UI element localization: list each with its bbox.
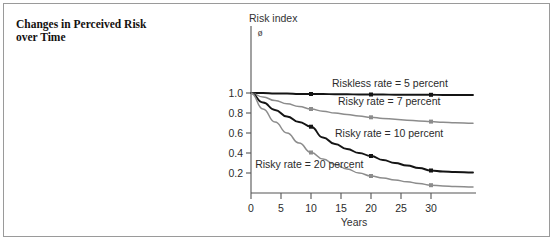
data-point-marker [369, 154, 373, 158]
data-point-marker [309, 125, 313, 129]
y-axis-title-group: Risk index ø [249, 12, 298, 38]
y-axis-title: Risk index [249, 12, 298, 24]
data-point-marker [429, 183, 433, 187]
series-annotation-5-percent: Riskless rate = 5 percent [332, 77, 448, 89]
risk-index-line-chart: Risk index ø 1.0 0.8 0.6 0.4 0.2 [4, 4, 551, 238]
data-point-marker [309, 151, 313, 155]
annotation-layer: Riskless rate = 5 percentRisky rate = 7 … [255, 77, 448, 170]
series-annotation-7-percent: Risky rate = 7 percent [338, 95, 441, 107]
y-tick-label-1.0: 1.0 [228, 87, 243, 99]
y-tick-label-0.4: 0.4 [228, 147, 243, 159]
data-point-marker [429, 120, 433, 124]
x-tick-label-30: 30 [425, 202, 437, 214]
y-tick-label-0.2: 0.2 [228, 167, 243, 179]
data-point-marker [369, 115, 373, 119]
y-axis-symbol: ø [258, 28, 263, 38]
series-line [251, 93, 473, 187]
data-point-marker [309, 107, 313, 111]
x-tick-label-5: 5 [278, 202, 284, 214]
x-axis-title: Years [341, 216, 367, 228]
y-tick-label-0.6: 0.6 [228, 127, 243, 139]
y-tick-label-0.8: 0.8 [228, 107, 243, 119]
x-tick-label-15: 15 [335, 202, 347, 214]
x-tick-label-0: 0 [248, 202, 254, 214]
data-point-marker [309, 92, 313, 96]
x-tick-label-10: 10 [305, 202, 317, 214]
y-tick-labels: 1.0 0.8 0.6 0.4 0.2 [228, 87, 243, 179]
x-tick-labels: 0 5 10 15 20 25 30 [248, 202, 437, 214]
y-tick-marks [246, 93, 251, 173]
x-tick-marks [251, 193, 431, 199]
series-20-percent [251, 93, 473, 187]
series-annotation-20-percent: Risky rate = 20 percent [255, 158, 363, 170]
x-tick-label-20: 20 [365, 202, 377, 214]
x-tick-label-25: 25 [395, 202, 407, 214]
series-annotation-10-percent: Risky rate = 10 percent [335, 127, 443, 139]
data-point-marker [369, 174, 373, 178]
figure-container: Changes in Perceived Risk over Time Risk… [3, 3, 550, 237]
data-point-marker [429, 169, 433, 173]
